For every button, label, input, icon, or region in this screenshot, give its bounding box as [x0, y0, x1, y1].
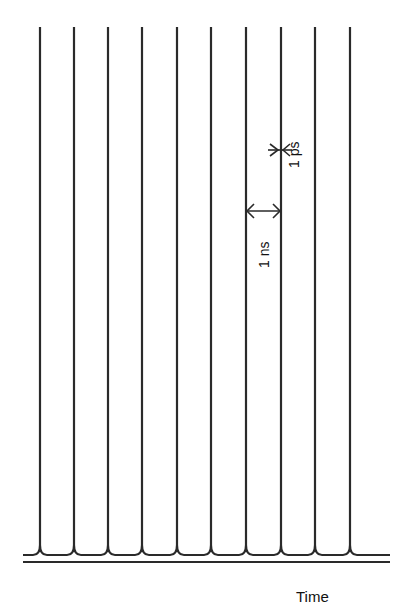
- spacing-label: 1 ns: [256, 242, 272, 268]
- width-label: 1 ps: [286, 142, 302, 168]
- pulse-train: [23, 27, 390, 555]
- pulse-train-diagram: [0, 0, 402, 611]
- spacing-arrow: [247, 204, 280, 218]
- x-axis-label: Time: [296, 588, 329, 605]
